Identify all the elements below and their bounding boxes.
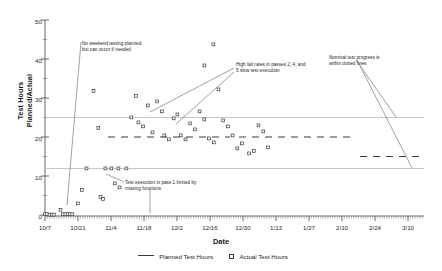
planned-test-hours-series: [108, 137, 424, 157]
chart-legend: Planned Test HoursActual Test Hours: [0, 252, 442, 260]
legend-actual-square-swatch: [229, 254, 234, 259]
legend-actual-label: Actual Test Hours: [239, 253, 287, 260]
actual-test-hours-series: [43, 43, 269, 216]
plot-canvas: [0, 0, 442, 271]
legend-planned-line-swatch: [138, 255, 154, 256]
chart-container: Test Hours Planned/Actual 50 40 30 20 10…: [0, 0, 442, 271]
legend-planned-label: Planned Test Hours: [159, 253, 213, 260]
axis-lines: [45, 20, 424, 216]
